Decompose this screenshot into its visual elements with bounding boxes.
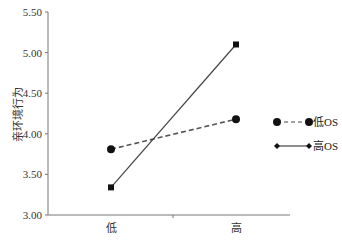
x-tick-label: 高: [231, 221, 242, 234]
circle-marker-icon: [107, 145, 115, 153]
series-低OS: [107, 115, 240, 153]
series-line: [111, 44, 236, 187]
legend: 低OS高OS: [273, 116, 338, 152]
legend-item: 高OS: [274, 139, 338, 152]
y-tick-label: 3.00: [23, 209, 43, 221]
x-axis-labels: 低高: [106, 221, 242, 234]
data-series: [107, 41, 240, 190]
series-高OS: [108, 41, 239, 190]
y-tick-label: 5.00: [23, 47, 43, 59]
diamond-marker-icon: [306, 143, 312, 149]
circle-marker-icon: [273, 118, 281, 126]
y-tick-label: 3.50: [23, 168, 43, 180]
legend-label: 低OS: [313, 116, 338, 128]
x-tick-label: 低: [106, 222, 117, 234]
legend-label: 高OS: [313, 139, 338, 152]
y-tick-label: 5.50: [23, 6, 43, 18]
y-axis-title: 亲环境行为: [11, 87, 25, 142]
y-tick-label: 4.50: [23, 87, 43, 99]
square-marker-icon: [108, 184, 114, 190]
square-marker-icon: [233, 41, 239, 47]
diamond-marker-icon: [274, 143, 280, 149]
axes: [48, 12, 290, 218]
circle-marker-icon: [305, 118, 313, 126]
interaction-line-chart: 3.003.504.004.505.005.50 亲环境行为 低高 低OS高OS: [0, 0, 342, 248]
series-line: [111, 119, 236, 149]
y-axis-ticks: 3.003.504.004.505.005.50: [23, 6, 48, 221]
circle-marker-icon: [232, 115, 240, 123]
legend-item: 低OS: [273, 116, 338, 128]
y-tick-label: 4.00: [23, 128, 43, 140]
